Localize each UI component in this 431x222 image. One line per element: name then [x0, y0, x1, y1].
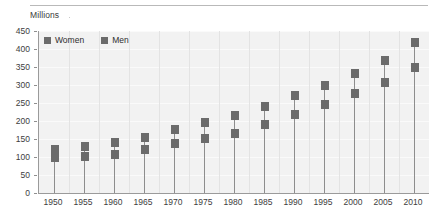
legend-item-men[interactable]: Men [101, 36, 129, 44]
data-point-marker [261, 120, 269, 129]
stem-line [204, 122, 205, 193]
x-tick-label: 2010 [393, 198, 431, 207]
data-point-marker [141, 145, 149, 154]
data-point-marker [201, 118, 209, 127]
legend-item-women[interactable]: Women [44, 36, 84, 44]
y-tick-mark [34, 31, 37, 32]
data-point-marker [201, 134, 209, 143]
legend-label: Women [55, 36, 84, 44]
gridline-horizontal [39, 67, 429, 68]
y-tick-mark [34, 67, 37, 68]
gridline-vertical [369, 31, 370, 193]
data-point-marker [291, 110, 299, 119]
y-tick-mark [34, 103, 37, 104]
y-tick-mark [34, 157, 37, 158]
gridline-vertical [69, 31, 70, 193]
gridline-horizontal [39, 49, 429, 50]
data-point-marker [81, 152, 89, 161]
data-point-marker [381, 56, 389, 65]
y-tick-mark [34, 121, 37, 122]
gridline-horizontal [39, 85, 429, 86]
gridline-vertical [129, 31, 130, 193]
data-point-marker [261, 102, 269, 111]
y-tick-mark [34, 85, 37, 86]
gridline-vertical [279, 31, 280, 193]
gridline-vertical [99, 31, 100, 193]
data-point-marker [141, 133, 149, 142]
data-point-marker [171, 125, 179, 134]
gridline-horizontal [39, 31, 429, 32]
y-tick-label: 50 [4, 171, 30, 179]
chart-legend: WomenMen [44, 36, 129, 44]
data-point-marker [291, 91, 299, 100]
data-point-marker [351, 69, 359, 78]
gridline-vertical [189, 31, 190, 193]
gridline-vertical [159, 31, 160, 193]
data-point-marker [321, 81, 329, 90]
stem-line [234, 116, 235, 193]
y-tick-label: 100 [4, 153, 30, 161]
gridline-horizontal [39, 103, 429, 104]
y-tick-mark [34, 175, 37, 176]
data-point-marker [231, 129, 239, 138]
data-point-marker [351, 89, 359, 98]
chart-figure: Millions 050100150200250300350400450 195… [0, 0, 431, 222]
data-point-marker [231, 111, 239, 120]
data-point-marker [381, 78, 389, 87]
gridline-vertical [249, 31, 250, 193]
data-point-marker [411, 38, 419, 47]
gridline-vertical [309, 31, 310, 193]
plot-area [38, 31, 429, 194]
data-point-marker [321, 100, 329, 109]
stray-dot-mark [69, 17, 70, 18]
data-point-marker [411, 63, 419, 72]
legend-label: Men [112, 36, 129, 44]
y-tick-mark [34, 193, 37, 194]
y-tick-mark [34, 49, 37, 50]
data-point-marker [171, 139, 179, 148]
y-axis-caption: Millions [30, 10, 59, 20]
data-point-marker [111, 150, 119, 159]
top-divider [30, 5, 428, 6]
y-tick-label: 350 [4, 63, 30, 71]
y-tick-label: 400 [4, 45, 30, 53]
legend-swatch-icon [101, 37, 108, 44]
y-tick-label: 450 [4, 27, 30, 35]
legend-swatch-icon [44, 37, 51, 44]
data-point-marker [81, 142, 89, 151]
y-tick-mark [34, 139, 37, 140]
y-tick-label: 0 [4, 189, 30, 197]
y-tick-label: 300 [4, 81, 30, 89]
gridline-vertical [399, 31, 400, 193]
data-point-marker [111, 138, 119, 147]
gridline-vertical [339, 31, 340, 193]
y-tick-label: 200 [4, 117, 30, 125]
y-tick-label: 250 [4, 99, 30, 107]
y-tick-label: 150 [4, 135, 30, 143]
gridline-vertical [219, 31, 220, 193]
data-point-marker [51, 145, 59, 154]
